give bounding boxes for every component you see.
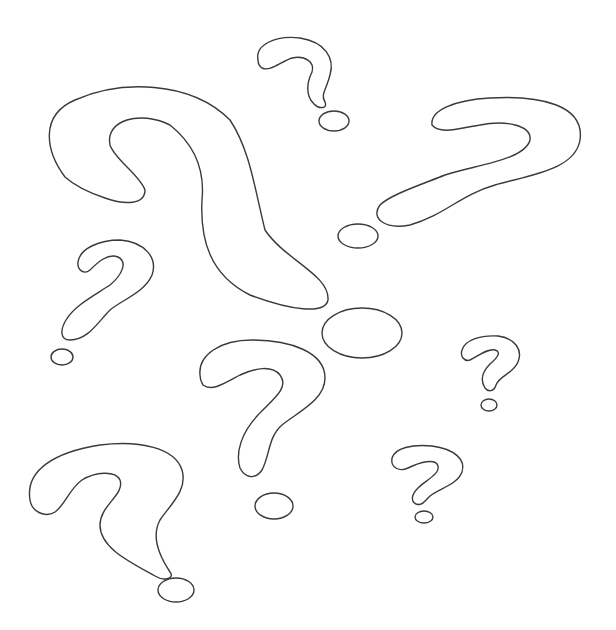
question-mark-center — [200, 340, 325, 519]
question-mark-right — [338, 97, 580, 248]
question-mark-top — [258, 37, 349, 131]
question-mark-bottom-right — [392, 446, 463, 524]
question-marks-drawing — [0, 0, 616, 630]
question-mark-left-mid — [51, 240, 153, 365]
question-mark-right-small — [461, 336, 519, 411]
question-mark-bottom-left — [29, 444, 194, 602]
question-mark-large-center — [49, 87, 402, 358]
